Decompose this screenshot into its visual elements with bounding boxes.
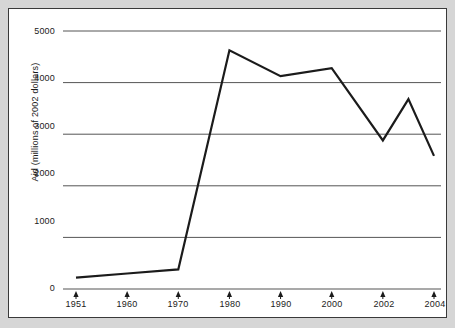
x-axis-ticks	[73, 291, 436, 299]
chart-surface: Aid (millions of 2002 dollars) 5000 4000…	[9, 9, 446, 317]
plot-area	[9, 9, 445, 316]
gridlines	[63, 31, 441, 289]
figure-root: Aid (millions of 2002 dollars) 5000 4000…	[0, 0, 455, 328]
chart-frame: Aid (millions of 2002 dollars) 5000 4000…	[8, 8, 447, 318]
data-series-line	[76, 50, 434, 277]
